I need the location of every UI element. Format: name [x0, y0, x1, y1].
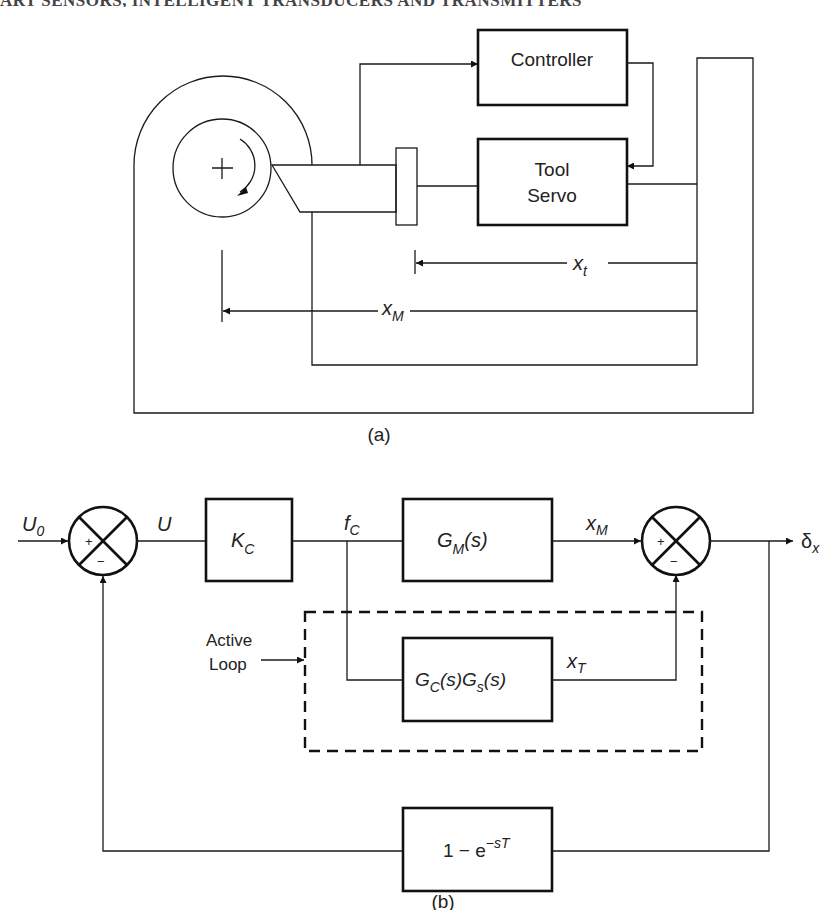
- active-branch-line: [347, 541, 403, 680]
- output-delta-label: δx: [801, 530, 820, 556]
- figure-a-caption: (a): [367, 424, 390, 445]
- tool-servo-block: [478, 139, 627, 225]
- figure-a: Controller Tool Servo xt xM (a): [134, 30, 753, 445]
- xt-signal-label: xT: [566, 650, 587, 676]
- spindle: [173, 119, 271, 217]
- figure-b-caption: (b): [431, 891, 454, 910]
- sum1-minus-sign: −: [97, 554, 105, 569]
- force-fc-label: fC: [344, 512, 361, 538]
- sum1-plus-sign: +: [85, 534, 93, 549]
- figure-b: U0 + − U KC fC GM(s) xM + −: [18, 499, 820, 910]
- controller-label: Controller: [511, 49, 594, 70]
- spindle-center-mark-icon: [212, 158, 233, 179]
- figure-canvas: Controller Tool Servo xt xM (a) U0: [0, 0, 834, 910]
- xm-signal-label: xM: [585, 512, 608, 538]
- cutting-tool: [272, 165, 396, 212]
- summing-junction-1: + −: [69, 507, 137, 575]
- gain-kc-block: [206, 499, 292, 581]
- signal-u-label: U: [157, 513, 172, 535]
- rotation-arrowhead-icon: [237, 187, 248, 196]
- tool-servo-label-line2: Servo: [527, 185, 577, 206]
- sensor-to-controller-line: [360, 64, 478, 165]
- summing-junction-2: + −: [642, 507, 710, 575]
- input-u0-label: U0: [22, 513, 44, 539]
- xm-label: xM: [381, 297, 404, 324]
- machine-housing-outline: [134, 58, 753, 413]
- xt-label: xt: [572, 252, 588, 279]
- tool-servo-label-line1: Tool: [535, 159, 570, 180]
- rotation-arrow-icon: [240, 139, 255, 192]
- feedback-line-right: [552, 541, 769, 851]
- sum2-plus-sign: +: [657, 534, 665, 549]
- active-loop-label-line2: Loop: [209, 655, 247, 674]
- active-loop-label-line1: Active: [206, 631, 252, 650]
- controller-to-servo-line: [627, 63, 653, 166]
- sum2-minus-sign: −: [670, 554, 678, 569]
- tool-holder: [396, 148, 417, 225]
- feedback-line-left: [103, 576, 403, 851]
